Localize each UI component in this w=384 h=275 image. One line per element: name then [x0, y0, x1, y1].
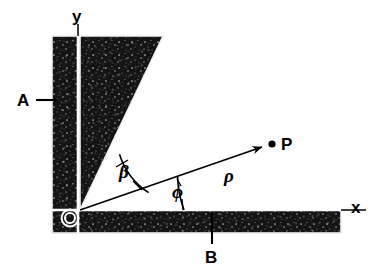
- rho-ray: [80, 147, 262, 210]
- plate-b-label: B: [205, 249, 217, 266]
- plate-b-bar-texture: [52, 210, 341, 233]
- point-p-dot: [268, 140, 275, 147]
- beta-label: β: [119, 162, 129, 181]
- plate-a-bar-texture: [52, 36, 80, 233]
- polar-coordinate-diagram: y x A B P ρ ϕ β: [0, 0, 384, 275]
- wedge-plate-shape: [80, 36, 163, 210]
- rho-label: ρ: [224, 166, 234, 185]
- plate-a-label: A: [17, 92, 29, 109]
- plate-b-shape: [52, 210, 341, 233]
- phi-label: ϕ: [172, 182, 183, 201]
- point-p-label: P: [281, 136, 292, 153]
- beta-leader-lower: [133, 181, 142, 190]
- plate-a-shape: [52, 36, 80, 233]
- diagram-canvas: [0, 0, 384, 275]
- x-axis-label: x: [351, 199, 360, 216]
- y-axis-label: y: [72, 8, 81, 25]
